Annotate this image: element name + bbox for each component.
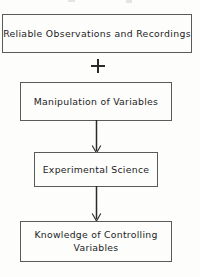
arrow-down-icon [90,186,103,222]
flow-node-knowledge: Knowledge of Controlling Variables [20,221,172,262]
flow-node-label: Reliable Observations and Recordings [3,28,191,39]
flow-node-label: Manipulation of Variables [34,96,158,107]
plus-bar-vertical [97,59,99,73]
scan-artifact [126,0,132,3]
flow-node-observations: Reliable Observations and Recordings [2,14,192,53]
plus-connector-icon [90,58,106,74]
arrow-down-icon [90,120,103,154]
flow-node-manipulation: Manipulation of Variables [20,82,172,121]
flow-node-label: Experimental Science [43,164,150,175]
flowchart-diagram: Reliable Observations and Recordings Man… [0,0,200,277]
scan-artifact [68,0,75,2]
flow-node-label: Knowledge of Controlling Variables [34,229,157,254]
flow-node-experimental: Experimental Science [34,152,158,187]
